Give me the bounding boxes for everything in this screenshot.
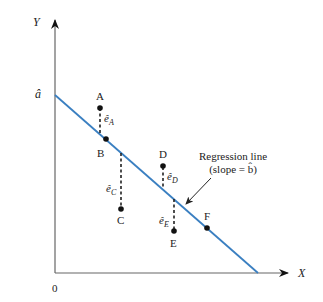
residual-label-e: êE: [159, 214, 169, 229]
data-points: [97, 105, 210, 234]
point-d: [160, 163, 166, 169]
regression-diagram: Y X 0 â A B C D E F êA êC êD êE Regre: [0, 0, 323, 302]
label-e: E: [170, 237, 177, 249]
label-d: D: [159, 148, 167, 160]
regression-label-line1: Regression line: [199, 150, 267, 162]
regression-label-line2: (slope = b̂): [209, 162, 257, 176]
point-b: [103, 136, 109, 142]
label-a: A: [96, 90, 104, 102]
point-c: [118, 206, 124, 212]
residual-label-d: êD: [167, 170, 178, 185]
regression-line: [55, 95, 258, 273]
regression-annotation: Regression line (slope = b̂): [186, 150, 267, 204]
point-labels: A B C D E F: [96, 90, 210, 249]
intercept-label: â: [35, 87, 41, 101]
point-a: [97, 105, 103, 111]
label-c: C: [117, 214, 124, 226]
y-axis-label: Y: [33, 15, 41, 29]
point-e: [171, 228, 177, 234]
annotation-arrow: [186, 178, 211, 204]
label-b: B: [97, 147, 104, 159]
residual-label-a: êA: [104, 112, 114, 127]
label-f: F: [204, 210, 210, 222]
point-f: [204, 225, 210, 231]
x-axis-label: X: [297, 266, 306, 280]
residual-label-c: êC: [106, 182, 117, 197]
origin-label: 0: [52, 282, 58, 294]
